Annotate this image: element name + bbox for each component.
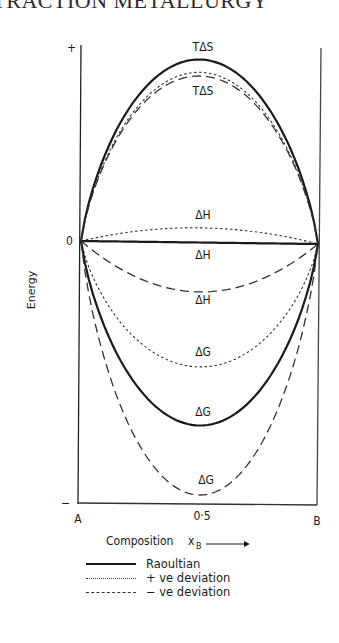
legend-label: + ve deviation [146,571,230,585]
right-axis [317,48,321,505]
left-axis [78,45,81,504]
label-tds-raoultian: TΔS [192,40,214,54]
label-dg-positive: ΔG [195,345,211,359]
y-axis-label: Energy [25,270,38,309]
dashed-line-swatch-icon [86,592,136,593]
solid-line-swatch-icon [86,563,136,565]
arrow-right-icon [206,541,250,547]
x-axis-symbol: x [188,534,195,548]
y-marker-minus: − [61,496,70,510]
legend-item-raoultian: Raoultian [86,557,230,571]
energy-composition-chart: + 0 − Energy TΔS TΔS ΔH ΔH ΔH ΔG ΔG ΔG A… [0,0,339,643]
label-dh-negative: ΔH [195,293,211,307]
x-axis-label: Composition [106,534,173,548]
legend-label: Raoultian [146,557,200,571]
label-dh-positive: ΔH [195,208,211,222]
curve--g-ve-deviation [81,241,318,495]
label-dg-negative: ΔG [198,473,214,487]
curve--h-raoultian [81,241,318,244]
legend-item-negative-deviation: − ve deviation [86,585,230,599]
y-marker-zero: 0 [66,234,73,248]
label-dg-raoultian: ΔG [195,405,211,419]
x-axis-subscript: B [196,542,202,551]
y-marker-plus: + [67,41,76,55]
legend-item-positive-deviation: + ve deviation [86,571,230,585]
label-dh-raoultian: ΔH [195,248,211,262]
label-tds-deviation: TΔS [192,84,214,98]
legend-label: − ve deviation [146,585,230,599]
x-tick-a: A [74,512,82,526]
bottom-axis [78,503,317,505]
dotted-line-swatch-icon [86,578,136,579]
legend: Raoultian + ve deviation − ve deviation [86,557,230,599]
x-tick-half: 0·5 [193,509,210,523]
x-tick-b: B [313,514,320,528]
curve-group [81,60,318,496]
